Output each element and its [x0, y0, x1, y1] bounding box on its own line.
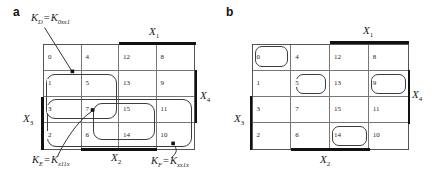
cell-number: 4	[294, 53, 300, 61]
x4-bar-b	[408, 70, 411, 124]
axis-x1-b: X1	[363, 25, 373, 41]
cell-number: 10	[372, 131, 381, 139]
cell-number: 3	[47, 105, 53, 113]
x3-bar-a	[41, 97, 44, 150]
cell-number: 8	[160, 53, 166, 61]
panel-a-letter: a	[13, 5, 20, 19]
kmap-a-cell-4: 4	[82, 45, 120, 71]
cell-number: 8	[372, 53, 378, 61]
x1-bar-b	[330, 41, 409, 44]
annotation-kd: KD=K0xx1	[31, 12, 70, 28]
cell-number: 7	[294, 105, 300, 113]
kmap-b-cell-7: 7	[291, 97, 330, 123]
cell-number: 1	[47, 79, 53, 87]
cell-number: 2	[47, 131, 53, 139]
loop-cell-5	[296, 74, 326, 94]
cell-number: 6	[294, 131, 300, 139]
cell-number: 6	[85, 131, 91, 139]
kmap-b-cell-10: 10	[369, 123, 408, 149]
kmap-a-cell-12: 12	[119, 45, 157, 71]
annotation-kf: KF=Kxx1x	[151, 155, 189, 171]
cell-number: 14	[333, 131, 342, 139]
axis-x1-a: X1	[149, 26, 159, 42]
kmap-b-cell-4: 4	[291, 45, 330, 71]
cell-number: 0	[256, 53, 262, 61]
cell-number: 5	[85, 79, 91, 87]
axis-x2-b: X2	[320, 154, 330, 170]
x1-bar-a	[119, 42, 197, 45]
kmap-b-cell-3: 3	[253, 97, 292, 123]
cell-number: 9	[160, 79, 166, 87]
kmap-b-cell-13: 13	[330, 71, 369, 97]
kmap-b-cell-12: 12	[330, 45, 369, 71]
kmap-figure: { "panels": { "a": { "panel_label": "a",…	[0, 0, 440, 180]
x2-bar-b	[291, 148, 370, 151]
panel-b-letter: b	[226, 5, 233, 19]
kmap-a-cell-0: 0	[44, 45, 82, 71]
cell-number: 2	[256, 131, 262, 139]
cell-number: 13	[122, 79, 131, 87]
annotation-ke: KE=Kx11x	[32, 154, 70, 170]
x3-bar-b	[250, 96, 253, 150]
cell-number: 9	[372, 79, 378, 87]
cell-number: 10	[160, 131, 169, 139]
cell-number: 14	[122, 131, 131, 139]
cell-number: 12	[333, 53, 342, 61]
kmap-b-cell-2: 2	[253, 123, 292, 149]
kmap-b-cell-8: 8	[369, 45, 408, 71]
x2-bar-a	[81, 148, 157, 151]
axis-x4-a: X4	[200, 90, 210, 106]
axis-x3-a: X3	[23, 113, 33, 129]
kmap-a-cell-9: 9	[157, 71, 195, 97]
cell-number: 15	[122, 105, 131, 113]
kmap-a-cell-13: 13	[119, 71, 157, 97]
cell-number: 5	[294, 79, 300, 87]
cell-number: 15	[333, 105, 342, 113]
cell-number: 11	[372, 105, 381, 113]
kmap-b-cell-1: 1	[253, 71, 292, 97]
cell-number: 12	[122, 53, 131, 61]
cell-number: 3	[256, 105, 262, 113]
cell-number: 13	[333, 79, 342, 87]
x4-bar-a	[195, 70, 198, 123]
axis-x2-a: X2	[111, 152, 121, 168]
kmap-b-cell-6: 6	[291, 123, 330, 149]
kmap-a-cell-8: 8	[157, 45, 195, 71]
cell-number: 4	[85, 53, 91, 61]
axis-x3-b: X3	[234, 113, 244, 129]
cell-number: 11	[160, 105, 169, 113]
cell-number: 1	[256, 79, 262, 87]
kmap-b-cell-11: 11	[369, 97, 408, 123]
cell-number: 0	[47, 53, 53, 61]
kmap-b-cell-15: 15	[330, 97, 369, 123]
axis-x4-b: X4	[412, 89, 422, 105]
cell-number: 7	[85, 105, 91, 113]
